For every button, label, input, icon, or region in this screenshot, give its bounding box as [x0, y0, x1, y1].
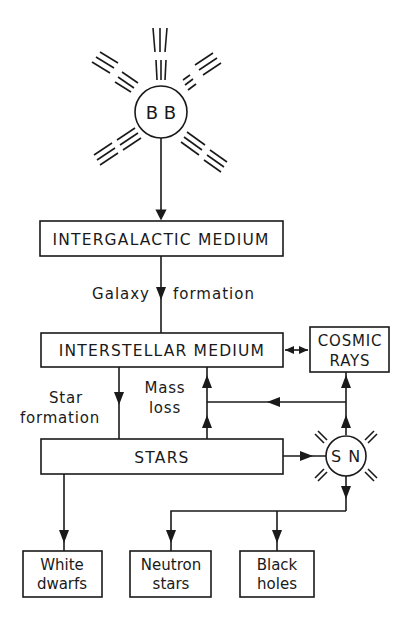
neutron-stars-line1: Neutron: [141, 556, 201, 574]
loss-label: loss: [149, 399, 181, 417]
interstellar-medium-label: INTERSTELLAR MEDIUM: [59, 342, 265, 360]
arrowhead-sn-down-icon: [341, 486, 351, 499]
neutron-stars-line2: stars: [153, 575, 190, 593]
arrowhead-white-dwarfs-icon: [59, 530, 69, 543]
star-formation-label: formation: [20, 409, 100, 427]
galaxy-label: Galaxy: [92, 285, 150, 303]
white-dwarfs-line1: White: [40, 556, 84, 574]
arrowhead-galaxy-formation-icon: [156, 287, 166, 300]
formation-label: formation: [173, 285, 255, 303]
arrowhead-stars-sn-icon: [300, 451, 313, 461]
arrowhead-mass-loss-upper-icon: [202, 375, 212, 388]
arrow-to-neutron-stars: [171, 511, 346, 551]
arrowhead-neutron-stars-icon: [166, 530, 176, 543]
cosmic-rays-node: COSMIC RAYS: [310, 327, 389, 372]
intergalactic-medium-label: INTERGALACTIC MEDIUM: [52, 231, 269, 249]
white-dwarfs-line2: dwarfs: [37, 575, 87, 593]
cosmic-rays-label-line2: RAYS: [330, 352, 371, 370]
stars-node: STARS: [41, 439, 283, 474]
intergalactic-medium-node: INTERGALACTIC MEDIUM: [40, 221, 283, 256]
cosmic-rays-label-line1: COSMIC: [318, 332, 382, 350]
supernova-label: S N: [331, 447, 361, 466]
arrowhead-sn-feedback-icon: [267, 397, 280, 407]
big-bang-node: B B: [92, 28, 227, 172]
arrowhead-sn-up-icon: [341, 415, 351, 428]
black-holes-line2: holes: [257, 575, 297, 593]
arrowhead-cosmic-rays-icon: [341, 375, 351, 388]
black-holes-line1: Black: [257, 556, 298, 574]
arrowhead-star-formation-icon: [114, 392, 124, 405]
big-bang-label: B B: [146, 102, 176, 123]
stars-label: STARS: [134, 449, 189, 467]
interstellar-medium-node: INTERSTELLAR MEDIUM: [41, 333, 283, 367]
arrowhead-mass-loss-lower-icon: [202, 415, 212, 428]
black-holes-node: Black holes: [240, 551, 314, 597]
white-dwarfs-node: White dwarfs: [23, 551, 102, 597]
arrowhead-black-holes-icon: [272, 530, 282, 543]
star-label: Star: [49, 389, 83, 407]
neutron-stars-node: Neutron stars: [130, 551, 211, 597]
mass-label: Mass: [145, 379, 186, 397]
cosmic-matter-cycle-diagram: B B INTERGALACTIC MEDIUM Galaxy formatio…: [0, 0, 410, 618]
